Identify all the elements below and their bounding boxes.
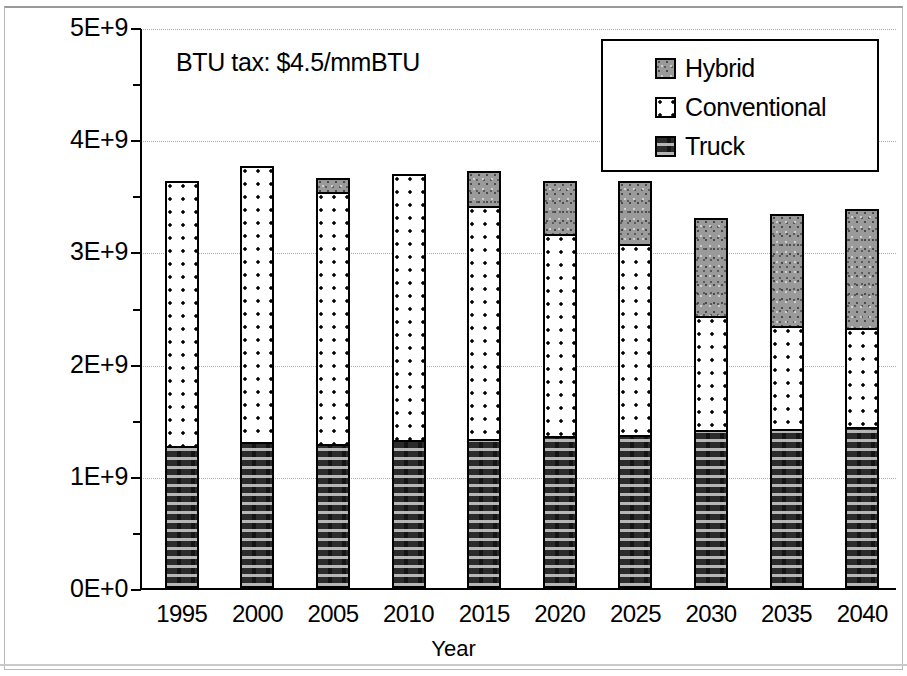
hybrid-swatch [655,58,676,79]
bar-group[interactable] [467,27,501,588]
legend-label: Hybrid [685,54,755,83]
conventional-swatch [655,97,676,118]
bar-segment-conventional[interactable] [543,234,577,438]
x-axis-tick-label: 2040 [817,600,907,628]
x-axis-line [140,588,896,590]
bar-segment-truck[interactable] [543,436,577,588]
legend-item-truck[interactable]: Truck [655,127,877,166]
bar-segment-truck[interactable] [618,435,652,588]
y-axis-tick-label: 2E+9 [8,350,128,379]
bar-segment-truck[interactable] [316,444,350,588]
bar-segment-conventional[interactable] [770,326,804,431]
bar-segment-conventional[interactable] [694,316,728,432]
legend-label: Conventional [685,93,826,122]
bar-segment-truck[interactable] [467,439,501,588]
bar-segment-hybrid[interactable] [694,218,728,318]
bar-segment-truck[interactable] [694,430,728,588]
bar-segment-truck[interactable] [845,427,879,588]
bar-segment-truck[interactable] [770,429,804,588]
btu-tax-annotation: BTU tax: $4.5/mmBTU [176,48,420,77]
chart-legend: HybridConventionalTruck [601,39,879,172]
bar-segment-conventional[interactable] [240,166,274,444]
bar-group[interactable] [392,27,426,588]
x-axis-title: Year [0,636,907,662]
bar-segment-conventional[interactable] [467,206,501,441]
y-axis-tick-label: 3E+9 [8,237,128,266]
y-axis-tick-label: 5E+9 [8,13,128,42]
bar-segment-hybrid[interactable] [543,181,577,236]
bar-group[interactable] [316,27,350,588]
legend-item-conventional[interactable]: Conventional [655,88,877,127]
bar-segment-conventional[interactable] [165,181,199,448]
y-axis-tick-label: 1E+9 [8,462,128,491]
bar-group[interactable] [543,27,577,588]
truck-swatch [655,136,676,157]
bar-segment-conventional[interactable] [392,174,426,442]
bar-segment-conventional[interactable] [845,328,879,429]
bar-segment-truck[interactable] [240,442,274,588]
bar-segment-hybrid[interactable] [618,181,652,246]
bar-segment-hybrid[interactable] [467,171,501,208]
bar-segment-hybrid[interactable] [770,214,804,328]
y-axis-line [140,29,142,590]
bar-group[interactable] [240,27,274,588]
bar-group[interactable] [165,27,199,588]
scan-border-bottom [0,664,907,666]
bar-segment-conventional[interactable] [618,244,652,437]
bar-segment-truck[interactable] [165,446,199,588]
y-axis-tick-label: 4E+9 [8,125,128,154]
bar-segment-hybrid[interactable] [316,178,350,195]
legend-item-hybrid[interactable]: Hybrid [655,49,877,88]
legend-label: Truck [685,132,745,161]
chart-figure: 0E+01E+92E+93E+94E+95E+9 199520002005201… [0,0,907,676]
y-axis-tick-label: 0E+0 [8,574,128,603]
bar-segment-truck[interactable] [392,440,426,588]
bar-segment-conventional[interactable] [316,192,350,445]
bar-segment-hybrid[interactable] [845,209,879,330]
